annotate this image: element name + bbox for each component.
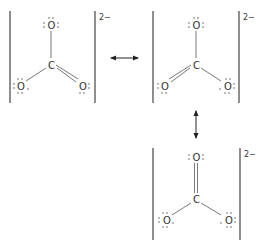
single-bond-right (201, 68, 221, 81)
double-bond-left-a (169, 65, 191, 79)
oxygen-left: O (163, 215, 171, 226)
oxygen-right: O (224, 81, 232, 92)
carbonate-resonance-diagram: 2− O C O O 2 (0, 0, 269, 249)
oxygen-right: O (79, 81, 87, 92)
oxygen-top: O (48, 20, 56, 31)
single-bond-left (172, 203, 191, 215)
double-bond-left-b (171, 68, 190, 82)
double-bond-right-a (56, 65, 78, 79)
carbon-center: C (193, 60, 200, 71)
oxygen-top: O (193, 20, 201, 31)
charge-label: 2− (244, 150, 256, 159)
carbon-center: C (193, 194, 200, 205)
charge-label: 2− (243, 13, 255, 22)
structure-3: 2− O C O O (153, 148, 256, 240)
oxygen-right: O (225, 215, 233, 226)
double-bond-right-b (57, 68, 76, 82)
oxygen-left: O (161, 81, 169, 92)
charge-label: 2− (99, 13, 111, 22)
structure-1: 2− O C O O (10, 11, 111, 103)
oxygen-top: O (193, 152, 201, 163)
structure-2: 2− O C O O (153, 11, 255, 103)
single-bond-right (201, 203, 221, 215)
single-bond-left (26, 68, 46, 81)
oxygen-left: O (17, 81, 25, 92)
carbon-center: C (48, 60, 55, 71)
